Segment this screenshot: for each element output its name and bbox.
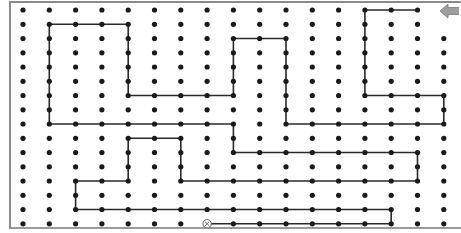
grid-dot[interactable] (152, 150, 157, 155)
grid-dot[interactable] (362, 136, 367, 141)
grid-dot[interactable] (152, 22, 157, 27)
grid-dot[interactable] (257, 193, 262, 198)
grid-dot[interactable] (99, 121, 104, 126)
grid-dot[interactable] (257, 150, 262, 155)
grid-dot[interactable] (20, 207, 25, 212)
grid-dot[interactable] (126, 22, 131, 27)
grid-dot[interactable] (441, 207, 446, 212)
grid-dot[interactable] (20, 64, 25, 69)
grid-dot[interactable] (415, 207, 420, 212)
grid-dot[interactable] (205, 50, 210, 55)
grid-dot[interactable] (152, 50, 157, 55)
grid-dot[interactable] (205, 7, 210, 12)
grid-dot[interactable] (231, 150, 236, 155)
grid-dot[interactable] (126, 150, 131, 155)
grid-dot[interactable] (20, 136, 25, 141)
grid-dot[interactable] (441, 193, 446, 198)
grid-dot[interactable] (231, 36, 236, 41)
grid-dot[interactable] (126, 7, 131, 12)
grid-dot[interactable] (152, 193, 157, 198)
grid-dot[interactable] (20, 150, 25, 155)
grid-dot[interactable] (389, 221, 394, 226)
grid-dot[interactable] (126, 136, 131, 141)
grid-dot[interactable] (283, 136, 288, 141)
grid-dot[interactable] (126, 121, 131, 126)
grid-dot[interactable] (47, 107, 52, 112)
grid-dot[interactable] (178, 107, 183, 112)
grid-dot[interactable] (152, 107, 157, 112)
grid-dot[interactable] (283, 22, 288, 27)
grid-dot[interactable] (231, 50, 236, 55)
grid-dot[interactable] (336, 121, 341, 126)
grid-dot[interactable] (257, 121, 262, 126)
grid-dot[interactable] (152, 207, 157, 212)
grid-dot[interactable] (99, 50, 104, 55)
grid-dot[interactable] (20, 93, 25, 98)
grid-dot[interactable] (231, 93, 236, 98)
grid-dot[interactable] (205, 93, 210, 98)
grid-dot[interactable] (178, 221, 183, 226)
grid-dot[interactable] (73, 79, 78, 84)
grid-dot[interactable] (310, 7, 315, 12)
grid-dot[interactable] (415, 121, 420, 126)
grid-dot[interactable] (310, 79, 315, 84)
grid-dot[interactable] (362, 193, 367, 198)
grid-dot[interactable] (362, 93, 367, 98)
grid-dot[interactable] (283, 207, 288, 212)
grid-dot[interactable] (257, 178, 262, 183)
grid-dot[interactable] (257, 221, 262, 226)
grid-dot[interactable] (99, 178, 104, 183)
grid-dot[interactable] (178, 50, 183, 55)
grid-dot[interactable] (178, 93, 183, 98)
grid-dot[interactable] (205, 150, 210, 155)
grid-dot[interactable] (178, 79, 183, 84)
grid-dot[interactable] (415, 107, 420, 112)
grid-dot[interactable] (283, 64, 288, 69)
grid-dot[interactable] (47, 93, 52, 98)
grid-dot[interactable] (310, 221, 315, 226)
grid-dot[interactable] (415, 22, 420, 27)
grid-dot[interactable] (389, 150, 394, 155)
grid-dot[interactable] (47, 64, 52, 69)
grid-dot[interactable] (310, 193, 315, 198)
grid-dot[interactable] (99, 79, 104, 84)
grid-dot[interactable] (73, 50, 78, 55)
grid-dot[interactable] (205, 64, 210, 69)
grid-dot[interactable] (73, 221, 78, 226)
grid-dot[interactable] (336, 193, 341, 198)
grid-dot[interactable] (362, 50, 367, 55)
grid-dot[interactable] (178, 193, 183, 198)
grid-dot[interactable] (152, 7, 157, 12)
grid-dot[interactable] (205, 164, 210, 169)
grid-dot[interactable] (415, 221, 420, 226)
grid-dot[interactable] (336, 36, 341, 41)
grid-dot[interactable] (336, 50, 341, 55)
grid-dot[interactable] (126, 207, 131, 212)
grid-dot[interactable] (415, 64, 420, 69)
grid-dot[interactable] (389, 7, 394, 12)
grid-dot[interactable] (47, 207, 52, 212)
grid-dot[interactable] (389, 64, 394, 69)
grid-dot[interactable] (283, 193, 288, 198)
grid-dot[interactable] (99, 221, 104, 226)
grid-dot[interactable] (20, 107, 25, 112)
grid-dot[interactable] (441, 136, 446, 141)
grid-dot[interactable] (205, 36, 210, 41)
grid-dot[interactable] (231, 121, 236, 126)
grid-dot[interactable] (441, 36, 446, 41)
grid-dot[interactable] (231, 107, 236, 112)
grid-dot[interactable] (362, 79, 367, 84)
grid-dot[interactable] (152, 121, 157, 126)
grid-dot[interactable] (283, 79, 288, 84)
grid-dot[interactable] (152, 136, 157, 141)
grid-dot[interactable] (99, 164, 104, 169)
grid-dot[interactable] (152, 79, 157, 84)
grid-dot[interactable] (152, 36, 157, 41)
grid-dot[interactable] (73, 107, 78, 112)
grid-dot[interactable] (178, 178, 183, 183)
grid-dot[interactable] (441, 107, 446, 112)
grid-dot[interactable] (336, 79, 341, 84)
grid-dot[interactable] (283, 150, 288, 155)
grid-dot[interactable] (126, 164, 131, 169)
grid-dot[interactable] (257, 107, 262, 112)
